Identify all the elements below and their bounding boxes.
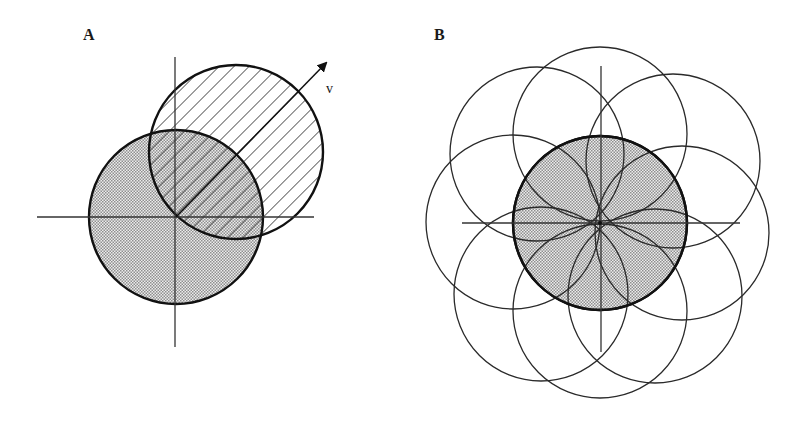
panel-b-label: B	[434, 26, 445, 43]
origin-point	[598, 221, 602, 225]
panel-b: B	[426, 26, 769, 398]
panel-a-label: A	[83, 26, 95, 43]
vector-v-label: v	[326, 81, 333, 96]
figure: A v B	[0, 0, 803, 423]
panel-a: A v	[37, 26, 340, 347]
